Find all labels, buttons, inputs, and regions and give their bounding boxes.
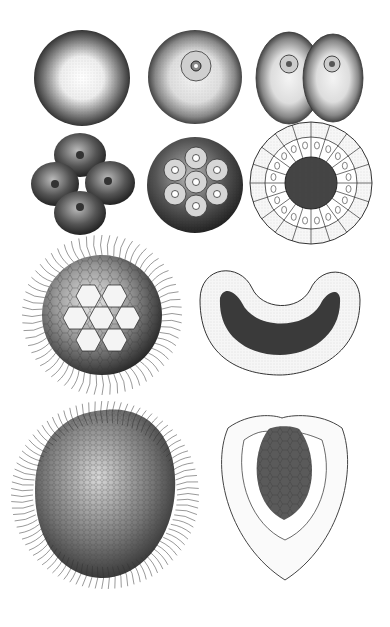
cilium: [177, 499, 199, 501]
cilium: [22, 321, 42, 324]
cilium: [11, 495, 33, 497]
cilium: [79, 372, 85, 391]
cilium: [19, 457, 39, 466]
cilium: [58, 365, 69, 382]
cilium: [140, 361, 153, 376]
cilium: [173, 520, 194, 528]
cilium: [22, 529, 41, 539]
embryo-plate: [0, 0, 390, 627]
cilium: [64, 368, 73, 386]
cilium: [13, 510, 35, 515]
cilium: [15, 515, 36, 521]
cilium: [176, 505, 198, 508]
cilium: [45, 258, 59, 272]
cilium: [15, 469, 36, 475]
cilium: [86, 374, 90, 394]
figure-morula: [147, 137, 243, 233]
figure-ciliated-blastula: [42, 255, 162, 375]
figure-gastrula-section: [222, 416, 348, 580]
cilium: [152, 348, 169, 359]
cilium: [177, 494, 199, 496]
cilium: [171, 457, 191, 466]
cilium: [140, 253, 153, 268]
cilium: [171, 524, 191, 533]
figure-ciliated-gastrula: [35, 410, 175, 579]
cilium: [161, 299, 181, 303]
cilium: [12, 482, 34, 485]
cilium: [25, 292, 44, 298]
cilium: [35, 271, 52, 282]
cilium: [144, 357, 158, 371]
cilium: [28, 338, 46, 346]
cilium: [12, 505, 34, 508]
cilium: [11, 500, 33, 502]
cilium: [45, 357, 59, 371]
cilium: [149, 552, 163, 569]
cilium: [107, 235, 110, 255]
cilium: [101, 235, 103, 255]
cilium: [159, 332, 178, 338]
cilium: [86, 237, 90, 257]
cilium: [40, 264, 55, 277]
cilium: [22, 307, 42, 310]
cilium: [35, 348, 52, 359]
cilium: [152, 271, 169, 282]
cilium: [25, 332, 44, 338]
cilium: [71, 241, 79, 259]
cilium: [102, 375, 104, 395]
cilium: [71, 370, 79, 388]
cilium: [58, 248, 69, 265]
cilium: [24, 327, 44, 331]
cilium: [93, 235, 96, 255]
cilium: [114, 374, 118, 394]
cilium: [119, 238, 125, 257]
cilium: [130, 244, 139, 262]
cilium: [22, 315, 42, 317]
cilium: [79, 238, 85, 257]
cilium: [176, 482, 198, 485]
cilium: [148, 264, 163, 277]
cilium: [177, 488, 199, 490]
cilium: [175, 510, 197, 515]
cilium: [22, 451, 41, 461]
cilium: [169, 529, 188, 539]
cilium: [135, 365, 146, 382]
cilium: [144, 258, 158, 272]
figure-four-cell: [31, 133, 135, 235]
cilium: [157, 545, 173, 560]
cilium: [155, 343, 173, 352]
cilium: [174, 515, 195, 521]
cilium: [175, 475, 197, 480]
cilium: [17, 463, 38, 471]
cilium: [108, 375, 111, 395]
cilium: [125, 370, 133, 388]
cilium: [174, 469, 195, 475]
cilium: [13, 475, 35, 480]
cilium: [135, 248, 146, 265]
cilium: [161, 327, 181, 331]
figure-nucleated-egg: [148, 30, 242, 124]
cilium: [162, 306, 182, 309]
cilium: [162, 314, 182, 316]
figure-zygote: [34, 30, 130, 126]
cilium: [24, 299, 44, 303]
cilium: [11, 488, 33, 490]
figure-blastula-section: [250, 122, 372, 244]
cilium: [157, 338, 175, 346]
cilium: [114, 237, 118, 257]
cilium: [166, 533, 185, 545]
cilium: [51, 361, 64, 376]
cilium: [119, 372, 125, 391]
cilium: [162, 320, 182, 323]
cilium: [159, 292, 178, 298]
cilium: [94, 375, 97, 395]
cilium: [148, 353, 163, 366]
cilium: [125, 241, 133, 259]
figure-invaginating-gastrula: [200, 271, 360, 375]
figure-two-cell: [256, 32, 363, 124]
cilium: [19, 524, 39, 533]
cilium: [51, 253, 64, 268]
cilium: [157, 284, 175, 292]
cilium: [40, 353, 55, 366]
cilium: [28, 284, 46, 292]
